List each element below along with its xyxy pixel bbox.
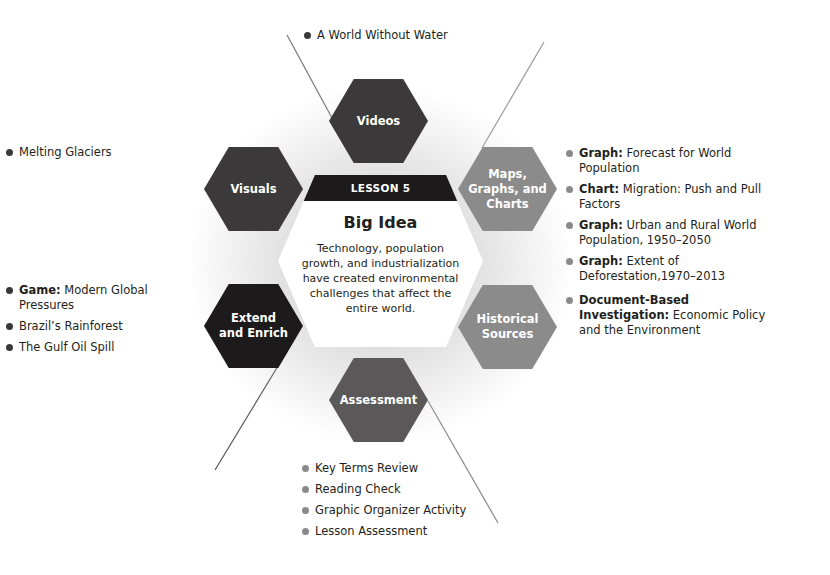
list-item[interactable]: Graph: Forecast for World Population [566, 146, 792, 176]
bullet-icon [302, 528, 309, 535]
bullet-icon [566, 297, 573, 304]
list-historical-sources: Document-Based Investigation: Economic P… [566, 293, 781, 344]
list-extend-enrich: Game: Modern Global Pressures Brazil’s R… [6, 283, 206, 361]
list-item[interactable]: Graph: Extent of Deforestation,1970–2013 [566, 254, 792, 284]
hex-maps-label: Maps, Graphs, and Charts [468, 167, 547, 212]
bullet-icon [302, 507, 309, 514]
list-item[interactable]: The Gulf Oil Spill [6, 340, 206, 355]
list-item[interactable]: Graph: Urban and Rural World Population,… [566, 218, 792, 248]
list-visuals: Melting Glaciers [6, 145, 186, 166]
list-item[interactable]: Chart: Migration: Push and Pull Factors [566, 182, 792, 212]
hex-visuals-label: Visuals [230, 182, 276, 197]
big-idea-text: Technology, population growth, and indus… [298, 241, 463, 316]
list-videos: A World Without Water [304, 28, 504, 49]
list-item[interactable]: Brazil’s Rainforest [6, 319, 206, 334]
center-big-idea: LESSON 5 Big Idea Technology, population… [278, 175, 483, 347]
hex-videos-label: Videos [357, 114, 400, 129]
list-maps-graphs-charts: Graph: Forecast for World Population Cha… [566, 146, 792, 290]
bullet-icon [302, 465, 309, 472]
big-idea-title: Big Idea [278, 213, 483, 232]
list-item[interactable]: Document-Based Investigation: Economic P… [566, 293, 781, 338]
list-assessment: Key Terms Review Reading Check Graphic O… [302, 461, 502, 545]
bullet-icon [566, 222, 573, 229]
list-item[interactable]: Reading Check [302, 482, 502, 497]
bullet-icon [566, 186, 573, 193]
bullet-icon [6, 149, 13, 156]
hex-historical-label: Historical Sources [477, 312, 539, 342]
list-item[interactable]: A World Without Water [304, 28, 504, 43]
hex-assessment-label: Assessment [340, 393, 418, 408]
bullet-icon [566, 150, 573, 157]
list-item[interactable]: Lesson Assessment [302, 524, 502, 539]
hex-extend-label: Extend and Enrich [219, 311, 288, 341]
bullet-icon [302, 486, 309, 493]
bullet-icon [6, 287, 13, 294]
bullet-icon [6, 323, 13, 330]
list-item[interactable]: Game: Modern Global Pressures [6, 283, 206, 313]
bullet-icon [304, 32, 311, 39]
list-item[interactable]: Key Terms Review [302, 461, 502, 476]
bullet-icon [566, 258, 573, 265]
list-item[interactable]: Graphic Organizer Activity [302, 503, 502, 518]
bullet-icon [6, 344, 13, 351]
list-item[interactable]: Melting Glaciers [6, 145, 186, 160]
